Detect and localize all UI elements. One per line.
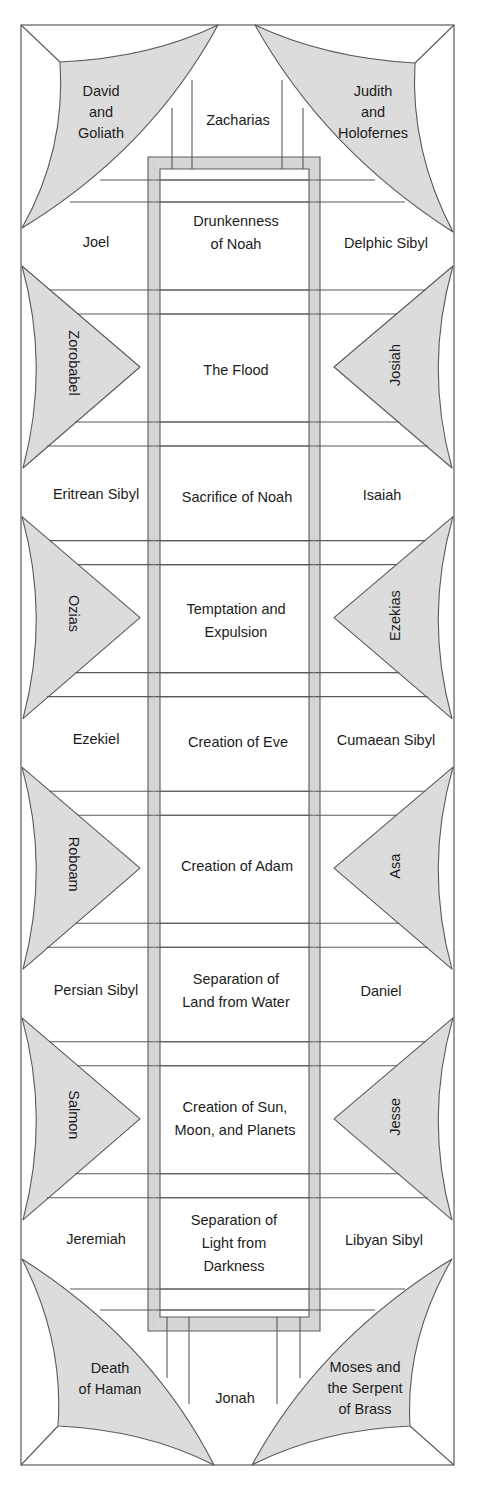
seer-left-3: Ezekiel <box>73 731 120 747</box>
spandrel-left-label-4: Salmon <box>66 1090 82 1139</box>
seer-right-1: Delphic Sibyl <box>344 235 428 251</box>
center-panel-label-6: Creation of Adam <box>181 858 293 874</box>
spandrel-right-label-4: Jesse <box>387 1098 403 1136</box>
seer-left-5: Jeremiah <box>66 1231 126 1247</box>
seer-right-2: Isaiah <box>363 487 402 503</box>
center-panel-label-2: The Flood <box>203 362 268 378</box>
seer-left-2: Eritrean Sibyl <box>53 486 139 502</box>
ceiling-diagram: DavidandGoliathJudithandHolofernesDeatho… <box>0 0 477 1493</box>
center-panel-label-1: Drunkennessof Noah <box>193 213 278 252</box>
corner-diagonal-top-right <box>415 25 454 63</box>
center-panel-label-8: Creation of Sun,Moon, and Planets <box>175 1099 296 1138</box>
corner-diagonal-top-left <box>21 25 60 62</box>
seer-left-1: Joel <box>83 234 110 250</box>
seer-right-3: Cumaean Sibyl <box>337 732 435 748</box>
spandrel-left-label-3: Roboam <box>66 837 82 892</box>
center-panel-label-3: Sacrifice of Noah <box>182 489 292 505</box>
seer-right-4: Daniel <box>360 983 401 999</box>
seer-right-5: Libyan Sibyl <box>345 1232 423 1248</box>
spandrel-right-label-3: Asa <box>387 853 403 879</box>
corner-diagonal-bottom-left <box>21 1426 58 1465</box>
center-panel-label-9: Separation ofLight fromDarkness <box>191 1212 278 1274</box>
center-panel-label-4: Temptation andExpulsion <box>186 601 285 640</box>
label-moses-and-serpent: Moses andthe Serpentof Brass <box>328 1359 403 1417</box>
ceiling-plan-svg: DavidandGoliathJudithandHolofernesDeatho… <box>0 0 477 1493</box>
label-jonah: Jonah <box>215 1390 255 1406</box>
center-panel-label-7: Separation ofLand from Water <box>182 971 290 1010</box>
spandrel-right-label-2: Ezekias <box>387 590 403 641</box>
corner-diagonal-bottom-right <box>410 1426 454 1465</box>
spandrel-left-label-1: Zorobabel <box>66 330 82 395</box>
center-panel-label-5: Creation of Eve <box>188 734 288 750</box>
spandrel-left-label-2: Ozias <box>66 595 82 632</box>
spandrel-right-label-1: Josiah <box>387 344 403 386</box>
label-zacharias: Zacharias <box>206 112 270 128</box>
seer-left-4: Persian Sibyl <box>54 982 139 998</box>
labels: DavidandGoliathJudithandHolofernesDeatho… <box>53 83 435 1417</box>
